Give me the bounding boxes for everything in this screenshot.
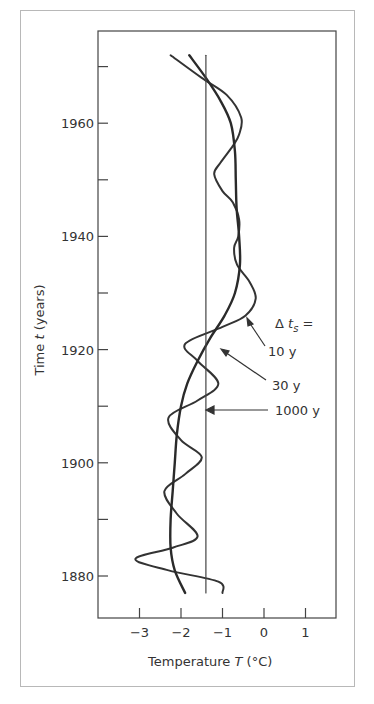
series-group — [135, 55, 255, 593]
label-10y: 10 y — [268, 344, 297, 359]
x-tick-label: 1 — [301, 625, 309, 640]
x-tick-label: −1 — [213, 625, 232, 640]
y-axis-ticks: 18801900192019401960 — [61, 67, 108, 584]
arrow-head-10y — [247, 318, 253, 326]
x-tick-label: −2 — [171, 625, 190, 640]
y-tick-label: 1960 — [61, 116, 94, 131]
arrow-head-1000y — [206, 406, 214, 414]
y-tick-label: 1920 — [61, 343, 94, 358]
y-tick-label: 1880 — [61, 569, 94, 584]
arrow-30y — [225, 352, 266, 380]
y-axis-title: Time t (years) — [32, 284, 47, 376]
temperature-time-chart: 18801900192019401960 −3−2−101 Δ ts = 10 … — [0, 0, 374, 704]
label-1000y: 1000 y — [275, 403, 320, 418]
y-tick-label: 1900 — [61, 456, 94, 471]
y-tick-label: 1940 — [61, 229, 94, 244]
arrow-head-30y — [221, 349, 229, 356]
legend-heading: Δ ts = — [275, 316, 313, 334]
x-tick-label: −3 — [130, 625, 149, 640]
label-30y: 30 y — [272, 378, 301, 393]
x-axis-title: Temperature T (°C) — [147, 654, 272, 669]
x-tick-label: 0 — [260, 625, 268, 640]
series-line-10y — [135, 55, 255, 593]
annotation-arrows — [206, 318, 268, 414]
arrow-10y — [249, 322, 265, 346]
x-axis-ticks: −3−2−101 — [130, 608, 310, 640]
